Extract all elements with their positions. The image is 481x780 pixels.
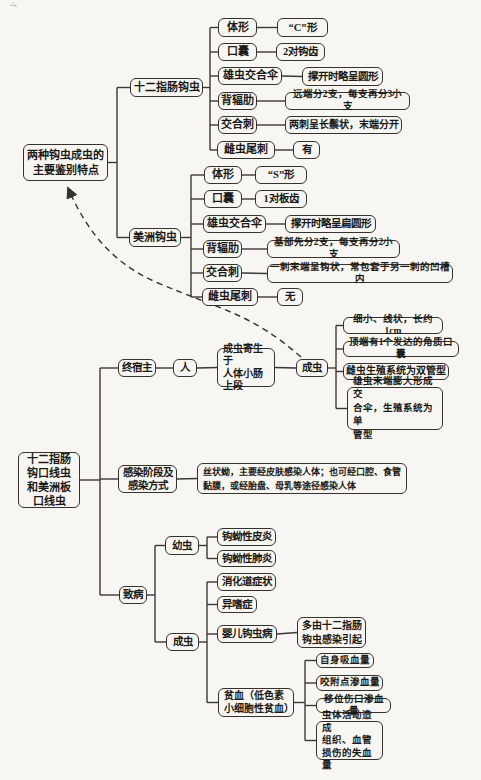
- node-adult-feature-size: 细小、线状，长约1cm: [343, 317, 443, 334]
- node-larval-pneumonitis: 钩蚴性肺炎: [217, 550, 276, 567]
- node-duodenale-body-shape-value: “C”形: [277, 18, 328, 37]
- mindmap-nodes: 两种钩虫成虫的 主要鉴别特点十二指肠钩虫体形“C”形口囊2对钩齿雄虫交合伞撑开时…: [0, 0, 481, 780]
- node-americanus-dorsal-ray-label: 背辐肋: [203, 240, 242, 258]
- node-duodenale-copulatory-bursa-value: 撑开时略呈圆形: [302, 67, 383, 86]
- node-americanus-copulatory-bursa-label: 雄虫交合伞: [203, 215, 266, 233]
- node-features-root: 两种钩虫成虫的 主要鉴别特点: [23, 144, 108, 181]
- node-americanus-copulatory-bursa-value: 撑开时略呈扁圆形: [285, 215, 376, 233]
- node-necator-americanus: 美洲钩虫: [129, 228, 181, 247]
- node-duodenale-spicule-value: 两刺呈长鬃状，末端分开: [285, 116, 402, 134]
- node-pathogenesis-label: 致病: [119, 586, 147, 604]
- node-pica: 异嗜症: [217, 596, 257, 613]
- node-americanus-spicule-label: 交合刺: [203, 264, 242, 282]
- node-duodenale-buccal-capsule-value: 2对钩齿: [276, 43, 325, 61]
- scanned-page: 两种钩虫成虫的 主要鉴别特点十二指肠钩虫体形“C”形口囊2对钩齿雄虫交合伞撑开时…: [0, 0, 481, 780]
- node-americanus-caudal-spine-label: 雌虫尾刺: [202, 288, 258, 306]
- node-infant-hookworm-disease: 婴儿钩虫病: [217, 625, 277, 643]
- node-americanus-buccal-capsule-label: 口囊: [204, 190, 242, 208]
- node-larva-label: 幼虫: [165, 536, 199, 555]
- node-adult-pathogenesis-label: 成虫: [166, 633, 199, 651]
- node-duodenale-buccal-capsule-label: 口囊: [218, 43, 257, 61]
- node-duodenale-caudal-spine-value: 有: [293, 141, 320, 159]
- node-ancylostoma-duodenale: 十二指肠钩虫: [130, 78, 203, 97]
- node-duodenale-dorsal-ray-label: 背辐肋: [218, 92, 257, 110]
- node-blood-loss-tissue-damage: 虫体活动造成 组织、血管 损伤的失血量: [316, 721, 383, 760]
- node-adult-feature-male-system: 雄虫末端膨大形成交 合伞，生殖系统为单 管型: [347, 387, 443, 430]
- node-americanus-body-shape-label: 体形: [204, 166, 242, 184]
- node-duodenale-spicule-label: 交合刺: [218, 116, 257, 134]
- node-americanus-buccal-capsule-value: 1对板齿: [255, 190, 307, 208]
- node-americanus-dorsal-ray-value: 基部先分2支，每支再分2小支: [267, 240, 400, 258]
- node-duodenale-caudal-spine-label: 雌虫尾刺: [217, 141, 275, 159]
- node-adult-feature-buccal-capsule: 顶端有1个发达的角质口囊: [343, 341, 459, 357]
- node-blood-loss-self-sucking: 自身吸血量: [316, 653, 374, 668]
- node-infant-hookworm-cause: 多由十二指肠 钩虫感染引起: [297, 617, 366, 648]
- node-final-host-label: 终宿主: [118, 359, 156, 377]
- node-infection-stage-value: 丝状蚴，主要经皮肤感染人体；也可经口腔、食管 黏膜，或经胎盘、母乳等途径感染人体: [197, 463, 407, 494]
- node-adult-worm: 成虫: [296, 359, 328, 377]
- node-gi-symptoms: 消化道症状: [217, 573, 276, 591]
- node-blood-loss-bite-site: 咬附点渗血量: [316, 675, 383, 691]
- node-americanus-caudal-spine-value: 无: [277, 288, 303, 306]
- node-larval-dermatitis: 钩蚴性皮炎: [217, 528, 276, 546]
- node-duodenale-dorsal-ray-value: 远端分2支，每支再分3小支: [285, 92, 410, 110]
- node-infection-stage-label: 感染阶段及 感染方式: [118, 465, 177, 493]
- node-human-host: 人: [173, 359, 197, 377]
- node-americanus-body-shape-value: “S”形: [255, 166, 307, 184]
- node-adult-habitat: 成虫寄生于 人体小肠 上段: [217, 348, 275, 387]
- node-duodenale-copulatory-bursa-label: 雄虫交合伞: [218, 67, 282, 85]
- node-americanus-spicule-value: 一刺末端呈钩状，常包套于另一刺的凹槽内: [267, 264, 453, 283]
- node-anemia: 贫血（低色素 小细胞性贫血）: [218, 688, 294, 717]
- node-duodenale-body-shape-label: 体形: [218, 18, 257, 37]
- node-hookworms-root: 十二指肠 钩口线虫 和美洲板 口线虫: [18, 452, 80, 508]
